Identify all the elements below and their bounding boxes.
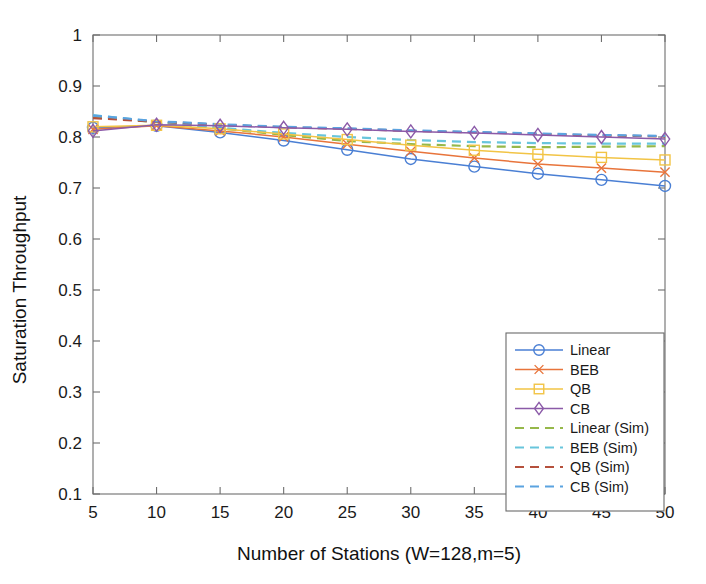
x-tick-label: 25	[338, 503, 357, 522]
legend-label: BEB	[570, 362, 599, 378]
figure-canvas: 0.10.20.30.40.50.60.70.80.91 51015202530…	[0, 0, 706, 584]
y-tick-label: 0.8	[58, 128, 82, 147]
legend-label: QB	[570, 381, 591, 397]
y-tick-label: 0.1	[58, 485, 82, 504]
y-tick-label: 0.5	[58, 281, 82, 300]
legend-label: CB (Sim)	[570, 479, 629, 495]
x-tick-label: 35	[465, 503, 484, 522]
legend-label: QB (Sim)	[570, 459, 630, 475]
chart-svg: 0.10.20.30.40.50.60.70.80.91 51015202530…	[0, 0, 706, 584]
y-tick-label: 0.4	[58, 332, 82, 351]
y-tick-label: 0.9	[58, 77, 82, 96]
x-tick-label: 30	[401, 503, 420, 522]
x-tick-label: 20	[274, 503, 293, 522]
y-tick-label: 0.6	[58, 230, 82, 249]
x-tick-label: 5	[88, 503, 97, 522]
y-tick-label: 0.3	[58, 383, 82, 402]
legend-label: Linear (Sim)	[570, 420, 649, 436]
y-tick-label: 0.2	[58, 434, 82, 453]
y-tick-label: 1	[73, 26, 82, 45]
y-axis-title: Saturation Throughput	[9, 195, 30, 384]
x-tick-label: 15	[211, 503, 230, 522]
y-tick-label: 0.7	[58, 179, 82, 198]
x-axis-title: Number of Stations (W=128,m=5)	[237, 543, 521, 564]
x-tick-label: 10	[147, 503, 166, 522]
legend-label: Linear	[570, 342, 610, 358]
legend-label: CB	[570, 401, 590, 417]
legend-label: BEB (Sim)	[570, 440, 638, 456]
chart-legend[interactable]: LinearBEBQBCBLinear (Sim)BEB (Sim)QB (Si…	[506, 333, 664, 511]
